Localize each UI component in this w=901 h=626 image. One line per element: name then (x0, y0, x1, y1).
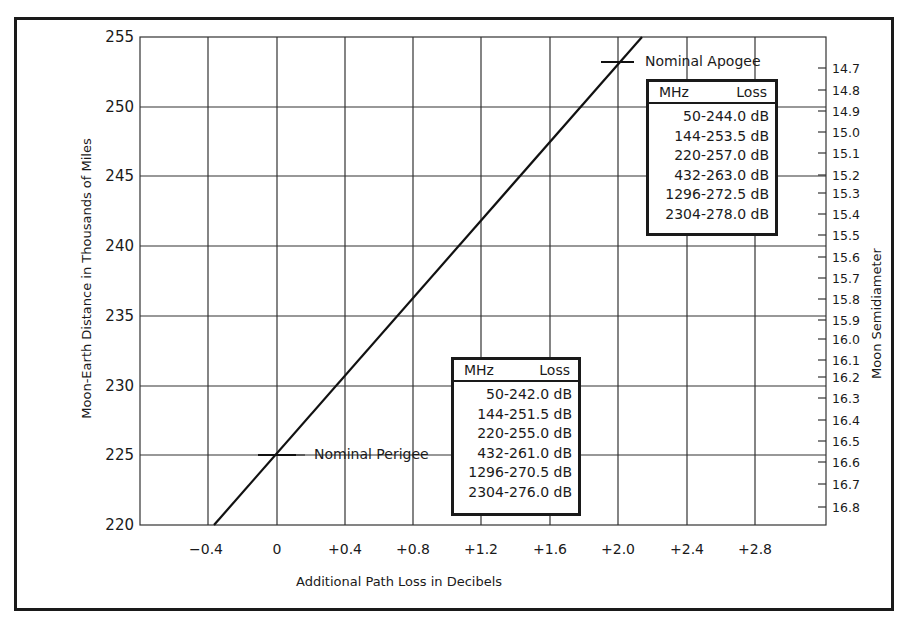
perigee-annotation: Nominal Perigee (314, 446, 429, 462)
apogee-annotation: Nominal Apogee (645, 53, 761, 69)
y2-tick: 15.3 (832, 186, 860, 201)
right-axis-ticks (818, 68, 826, 507)
y-tick: 230 (105, 377, 134, 395)
y2-axis-label: Moon Semidiameter (869, 244, 884, 384)
y2-tick: 14.7 (832, 61, 860, 76)
table-row: 220-257.0 dB (653, 146, 769, 166)
y2-tick: 16.1 (832, 353, 860, 368)
x-axis-label: Additional Path Loss in Decibels (296, 574, 502, 589)
table-header-loss: Loss (736, 84, 767, 100)
y2-tick: 15.1 (832, 146, 860, 161)
table-row: 2304-278.0 dB (653, 205, 769, 225)
x-tick: +2.0 (601, 541, 635, 557)
y2-tick: 16.0 (832, 332, 860, 347)
y-axis-label: Moon-Earth Distance in Thousands of Mile… (79, 119, 94, 439)
y-tick: 225 (105, 446, 134, 464)
x-tick: +2.8 (738, 541, 772, 557)
table-header-mhz: MHz (659, 84, 689, 100)
table-row: 432-263.0 dB (653, 166, 769, 186)
perigee-loss-table: MHzLoss 50-242.0 dB 144-251.5 dB 220-255… (451, 357, 581, 516)
table-header-mhz: MHz (464, 362, 494, 378)
y2-tick: 14.8 (832, 83, 860, 98)
y2-tick: 14.9 (832, 104, 860, 119)
table-row: 144-253.5 dB (653, 127, 769, 147)
x-tick: +2.4 (670, 541, 704, 557)
y2-tick: 16.4 (832, 413, 860, 428)
y-tick: 240 (105, 237, 134, 255)
table-row: 2304-276.0 dB (458, 483, 572, 503)
y2-tick: 16.2 (832, 370, 860, 385)
x-tick: −0.4 (189, 541, 223, 557)
y2-tick: 16.5 (832, 434, 860, 449)
table-row: 220-255.0 dB (458, 424, 572, 444)
y-tick: 235 (105, 307, 134, 325)
table-row: 50-244.0 dB (653, 107, 769, 127)
y2-tick: 16.6 (832, 455, 860, 470)
y2-tick: 16.8 (832, 500, 860, 515)
y2-tick: 15.4 (832, 207, 860, 222)
table-row: 144-251.5 dB (458, 405, 572, 425)
y2-tick: 15.0 (832, 125, 860, 140)
x-tick: +1.2 (464, 541, 498, 557)
y2-tick: 16.7 (832, 477, 860, 492)
table-row: 50-242.0 dB (458, 385, 572, 405)
y2-tick: 15.6 (832, 250, 860, 265)
x-tick: +1.6 (533, 541, 567, 557)
table-row: 432-261.0 dB (458, 444, 572, 464)
table-row: 1296-272.5 dB (653, 185, 769, 205)
x-tick: +0.4 (328, 541, 362, 557)
x-tick: 0 (273, 541, 282, 557)
apogee-loss-table: MHzLoss 50-244.0 dB 144-253.5 dB 220-257… (646, 79, 778, 236)
y-tick: 250 (105, 98, 134, 116)
y2-tick: 16.3 (832, 391, 860, 406)
y2-tick: 15.9 (832, 313, 860, 328)
y2-tick: 15.8 (832, 292, 860, 307)
y2-tick: 15.7 (832, 271, 860, 286)
y-tick: 220 (105, 516, 134, 534)
table-row: 1296-270.5 dB (458, 463, 572, 483)
y2-tick: 15.5 (832, 228, 860, 243)
y-tick: 245 (105, 167, 134, 185)
x-tick: +0.8 (396, 541, 430, 557)
y-tick: 255 (105, 28, 134, 46)
table-header-loss: Loss (539, 362, 570, 378)
y2-tick: 15.2 (832, 168, 860, 183)
